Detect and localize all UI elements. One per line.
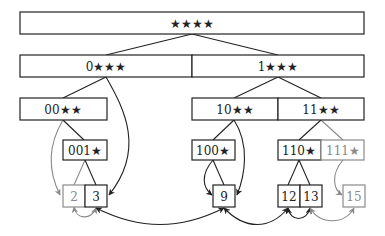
label-9: 9 [220,190,228,204]
label-001: 001★ [68,144,102,158]
label-13: 13 [303,190,318,204]
label-10: 10★★ [216,103,253,117]
label-111: 111★ [326,144,360,158]
label-110: 110★ [282,144,316,158]
label-1: 1★★★ [258,60,299,74]
label-12: 12 [281,190,296,204]
label-root: ★★★★ [170,17,214,31]
label-0: 0★★★ [86,60,127,74]
label-2: 2 [70,190,78,204]
label-3: 3 [92,190,100,204]
pointer-into-9 [107,202,222,214]
label-100: 100★ [196,144,230,158]
label-00: 00★★ [44,103,81,117]
trie-diagram: ★★★★ 0★★★ 1★★★ 00★★ 10★★ 11★★ 001★ 100★ … [0,0,385,236]
label-11: 11★★ [302,103,339,117]
label-15: 15 [346,190,361,204]
